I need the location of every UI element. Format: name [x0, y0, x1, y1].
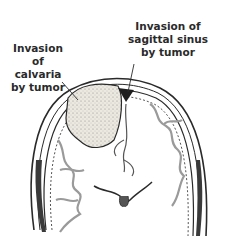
skull-shadow-right	[196, 160, 202, 236]
leader-line-sinus	[128, 64, 134, 92]
brain-illustration	[0, 0, 227, 252]
third-ventricle	[119, 196, 128, 207]
tumor-mass	[66, 84, 121, 147]
cortex-left	[56, 140, 84, 232]
cortex-right	[150, 104, 184, 206]
